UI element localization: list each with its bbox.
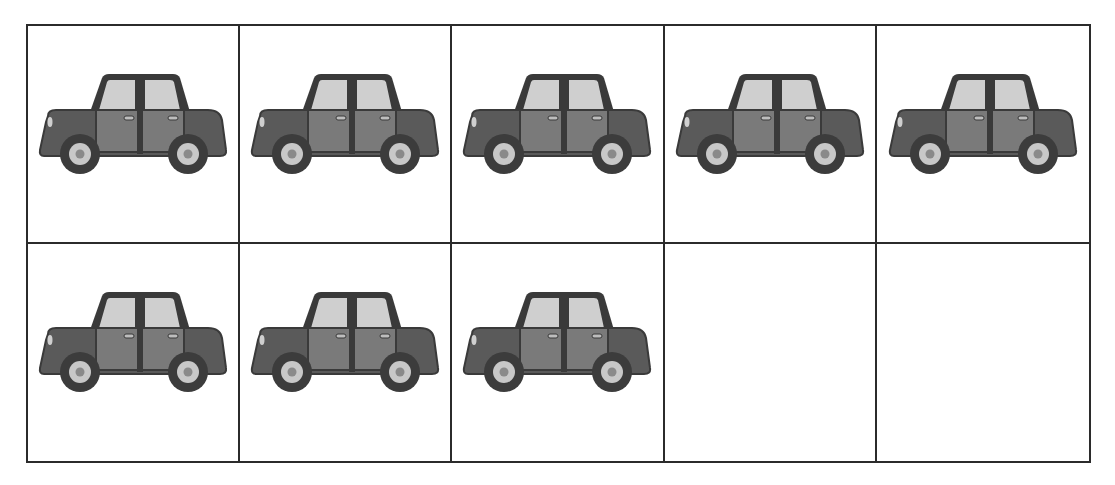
ten-frame-cell-6 <box>28 244 240 462</box>
car-icon <box>38 72 228 176</box>
ten-frame-cell-8 <box>452 244 664 462</box>
car-icon <box>675 72 865 176</box>
car-icon <box>250 72 440 176</box>
ten-frame-cell-7 <box>240 244 452 462</box>
ten-frame-cell-1 <box>28 26 240 244</box>
ten-frame-cell-5 <box>877 26 1089 244</box>
ten-frame-cell-2 <box>240 26 452 244</box>
ten-frame-cell-10-empty <box>877 244 1089 462</box>
ten-frame-cell-9-empty <box>665 244 877 462</box>
car-icon <box>888 72 1078 176</box>
ten-frame-cell-4 <box>665 26 877 244</box>
ten-frame-grid <box>26 24 1091 463</box>
car-icon <box>462 72 652 176</box>
ten-frame-cell-3 <box>452 26 664 244</box>
car-icon <box>250 290 440 394</box>
clipped-heading-fragment <box>0 0 1115 8</box>
car-icon <box>462 290 652 394</box>
car-icon <box>38 290 228 394</box>
